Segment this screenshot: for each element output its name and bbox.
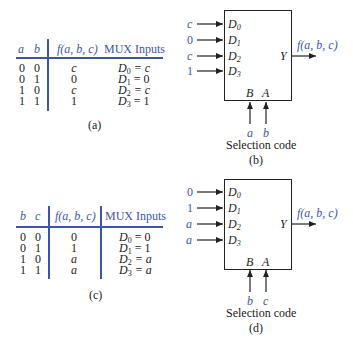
selection-code-label: Selection code bbox=[226, 307, 296, 319]
pin-d0: D0 bbox=[228, 186, 241, 198]
input-label: c bbox=[187, 50, 192, 62]
input-label: a bbox=[186, 218, 192, 230]
pin-a: A bbox=[262, 256, 269, 268]
output-label: f(a, b, c) bbox=[297, 207, 338, 219]
input-label: 0 bbox=[187, 34, 193, 46]
pin-a: A bbox=[262, 87, 269, 99]
input-label: 1 bbox=[187, 65, 193, 77]
pin-d1: D1 bbox=[228, 34, 241, 46]
pin-b: B bbox=[246, 256, 253, 268]
input-label: 1 bbox=[187, 202, 193, 214]
input-label: 0 bbox=[187, 186, 193, 198]
pin-d1: D1 bbox=[228, 202, 241, 214]
caption-b: (b) bbox=[249, 154, 263, 166]
output-label: f(a, b, c) bbox=[297, 39, 338, 51]
pin-b: B bbox=[246, 87, 253, 99]
input-label: c bbox=[187, 18, 192, 30]
pin-d2: D2 bbox=[228, 218, 241, 230]
pin-d3: D3 bbox=[228, 65, 241, 77]
pin-y: Y bbox=[280, 218, 287, 230]
pin-d3: D3 bbox=[228, 234, 241, 246]
caption-d: (d) bbox=[249, 322, 263, 334]
pin-y: Y bbox=[280, 50, 287, 62]
pin-d0: D0 bbox=[228, 18, 241, 30]
pin-d2: D2 bbox=[228, 50, 241, 62]
wires bbox=[0, 0, 353, 350]
selection-code-label: Selection code bbox=[226, 139, 296, 151]
input-label: a bbox=[186, 234, 192, 246]
